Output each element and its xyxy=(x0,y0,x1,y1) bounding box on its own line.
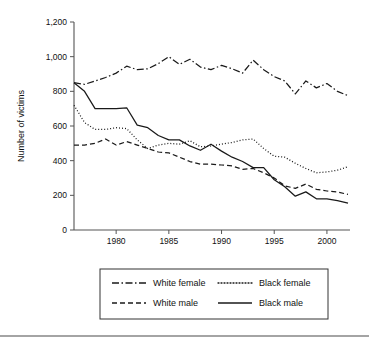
series-line-black-female xyxy=(74,105,348,173)
y-tick-label: 1,000 xyxy=(46,52,68,62)
legend-box xyxy=(100,269,328,319)
legend-label: White male xyxy=(153,298,198,308)
y-tick-label: 200 xyxy=(53,190,67,200)
legend-label: Black male xyxy=(259,298,303,308)
x-tick-label: 1985 xyxy=(159,236,178,246)
legend-item[interactable]: Black female xyxy=(218,278,311,288)
series-line-white-female xyxy=(74,57,348,96)
y-tick-label: 0 xyxy=(62,225,67,235)
series-line-black-male xyxy=(74,83,348,203)
legend-item[interactable]: Black male xyxy=(218,298,303,308)
y-tick-label: 600 xyxy=(53,121,67,131)
legend-item[interactable]: White female xyxy=(112,278,206,288)
x-tick-label: 1995 xyxy=(265,236,284,246)
series-line-white-male xyxy=(74,139,348,194)
x-tick-label: 2000 xyxy=(317,236,336,246)
x-tick-label: 1990 xyxy=(212,236,231,246)
y-axis-title: Number of victims xyxy=(16,89,26,162)
victims-line-chart: 02004006008001,0001,20019801985199019952… xyxy=(0,0,369,341)
y-tick-label: 400 xyxy=(53,156,67,166)
x-tick-label: 1980 xyxy=(107,236,126,246)
legend-label: Black female xyxy=(259,278,311,288)
legend-item[interactable]: White male xyxy=(112,298,198,308)
y-tick-label: 800 xyxy=(53,86,67,96)
y-tick-label: 1,200 xyxy=(46,17,68,27)
legend-label: White female xyxy=(153,278,206,288)
chart-figure: 02004006008001,0001,20019801985199019952… xyxy=(0,0,369,341)
